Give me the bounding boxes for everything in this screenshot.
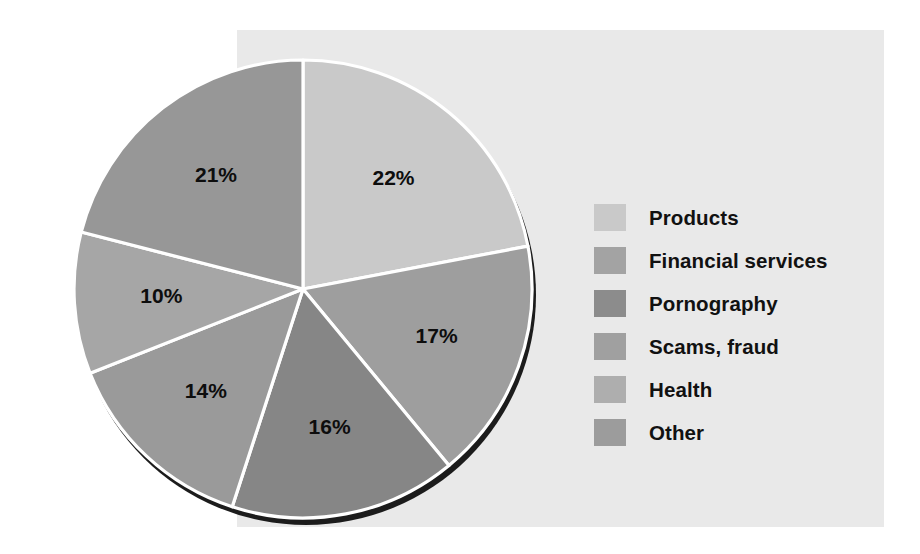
legend-swatch-products — [594, 204, 626, 231]
legend-swatch-health — [594, 376, 626, 403]
pie-slice-data-label: 17% — [416, 324, 458, 347]
legend-item-financial-services[interactable]: Financial services — [594, 239, 874, 282]
pie-chart: 22%17%16%14%10%21% — [70, 52, 540, 532]
legend-swatch-other — [594, 419, 626, 446]
legend-swatch-pornography — [594, 290, 626, 317]
legend-label-scams-fraud: Scams, fraud — [649, 335, 779, 359]
chart-canvas: 22%17%16%14%10%21% Products Financial se… — [0, 0, 920, 554]
pie-slice-data-label: 21% — [195, 163, 237, 186]
legend-label-other: Other — [649, 421, 704, 445]
pie-slice-data-label: 22% — [372, 166, 414, 189]
legend-item-other[interactable]: Other — [594, 411, 874, 454]
legend-item-pornography[interactable]: Pornography — [594, 282, 874, 325]
legend-label-financial-services: Financial services — [649, 249, 827, 273]
legend-label-health: Health — [649, 378, 712, 402]
legend-item-products[interactable]: Products — [594, 196, 874, 239]
legend-swatch-scams-fraud — [594, 333, 626, 360]
legend-swatch-financial-services — [594, 247, 626, 274]
legend-item-scams-fraud[interactable]: Scams, fraud — [594, 325, 874, 368]
legend-label-products: Products — [649, 206, 739, 230]
pie-chart-svg: 22%17%16%14%10%21% — [70, 52, 540, 532]
legend-item-health[interactable]: Health — [594, 368, 874, 411]
chart-legend: Products Financial services Pornography … — [594, 196, 874, 454]
pie-slice-data-label: 16% — [309, 415, 351, 438]
legend-label-pornography: Pornography — [649, 292, 778, 316]
pie-slice-data-label: 14% — [185, 379, 227, 402]
pie-slice-data-label: 10% — [140, 284, 182, 307]
